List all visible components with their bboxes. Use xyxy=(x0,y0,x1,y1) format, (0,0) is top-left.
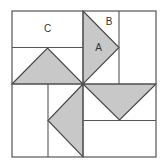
quilt-block-diagram: C B A xyxy=(0,0,166,165)
label-a: A xyxy=(95,42,102,53)
label-b: B xyxy=(106,16,113,27)
label-c: C xyxy=(44,23,51,34)
